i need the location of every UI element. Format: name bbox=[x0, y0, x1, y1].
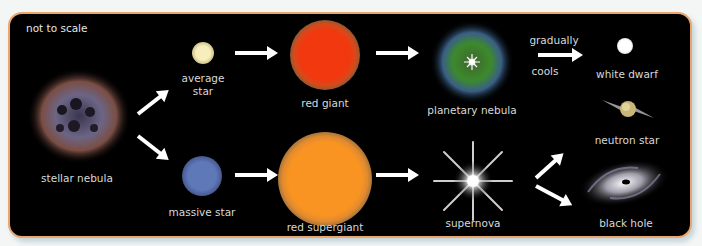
neutron-star-icon bbox=[600, 94, 656, 124]
planetary-nebula-label: planetary nebula bbox=[427, 104, 516, 117]
arrow-to-planetary-nebula bbox=[376, 51, 410, 55]
red-supergiant-label: red supergiant bbox=[287, 221, 364, 234]
black-hole-label: black hole bbox=[599, 217, 653, 230]
average-star-label: average star bbox=[182, 72, 225, 98]
arrow-to-supernova bbox=[376, 173, 410, 177]
arrow-to-black-hole bbox=[535, 184, 565, 203]
average-star-label-line1: average bbox=[182, 72, 225, 84]
supernova-label: supernova bbox=[445, 217, 500, 230]
stellar-nebula-icon bbox=[24, 66, 134, 166]
stellar-nebula-label: stellar nebula bbox=[41, 172, 113, 185]
neutron-star-label: neutron star bbox=[595, 134, 660, 147]
arrow-to-average-star bbox=[137, 94, 163, 116]
white-dwarf-icon bbox=[617, 38, 633, 54]
average-star-label-line2: star bbox=[193, 85, 213, 97]
massive-star-icon bbox=[182, 156, 222, 196]
cools-label: cools bbox=[531, 65, 558, 78]
massive-star-label: massive star bbox=[169, 206, 236, 219]
arrow-to-white-dwarf bbox=[538, 53, 574, 57]
not-to-scale-note: not to scale bbox=[26, 22, 87, 34]
arrow-to-red-giant bbox=[235, 51, 269, 55]
planetary-nebula-icon bbox=[430, 20, 514, 104]
white-dwarf-label: white dwarf bbox=[596, 68, 658, 81]
arrow-to-neutron-star bbox=[535, 158, 558, 180]
red-supergiant-icon bbox=[278, 132, 372, 226]
gradually-label: gradually bbox=[529, 34, 578, 47]
black-hole-icon bbox=[578, 158, 670, 208]
average-star-icon bbox=[192, 42, 214, 64]
arrow-to-red-supergiant bbox=[235, 173, 269, 177]
red-giant-label: red giant bbox=[301, 97, 348, 110]
stellar-life-cycle-panel: not to scale stellar nebula average star… bbox=[8, 12, 692, 238]
arrow-to-massive-star bbox=[137, 134, 163, 156]
red-giant-icon bbox=[290, 20, 360, 90]
supernova-icon bbox=[430, 138, 516, 224]
